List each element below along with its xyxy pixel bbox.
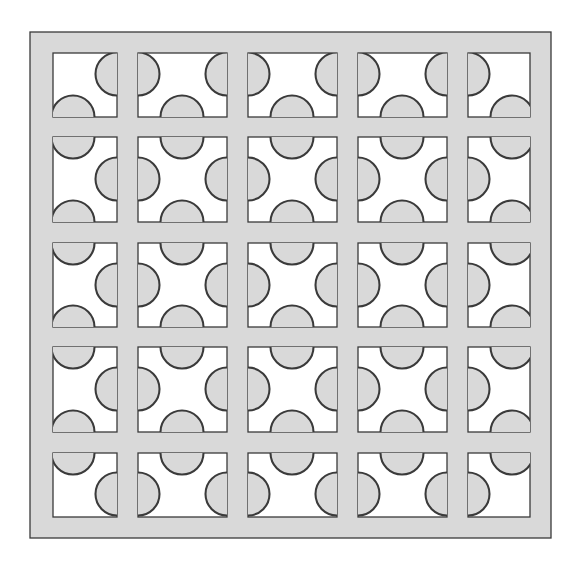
lattice-panel-svg	[0, 0, 580, 565]
lattice-panel-figure	[0, 0, 580, 565]
